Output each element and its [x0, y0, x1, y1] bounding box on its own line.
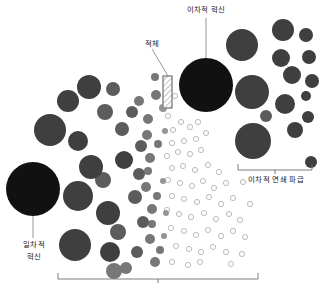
node-hollow: [175, 149, 180, 154]
node-dark-gray: [302, 50, 316, 64]
node-hollow: [185, 262, 190, 267]
node-gray: [142, 130, 152, 140]
node-mid-gray: [131, 246, 143, 258]
node-light-gray: [161, 233, 167, 239]
node-hollow: [169, 140, 174, 145]
node-black: [179, 58, 233, 112]
node-gray: [134, 96, 144, 106]
node-hollow: [169, 165, 174, 170]
node-gray: [153, 192, 161, 200]
node-hollow: [181, 228, 186, 233]
node-gray: [106, 263, 122, 279]
node-dark-gray: [301, 91, 311, 101]
node-hollow: [194, 199, 199, 204]
node-dark-gray: [299, 28, 313, 42]
label-primary-innovation-line2: 혁신: [12, 252, 56, 262]
node-gray: [145, 234, 155, 244]
node-mid-gray: [133, 168, 145, 180]
node-hollow: [193, 232, 198, 237]
node-hollow: [178, 119, 183, 124]
node-hollow: [188, 214, 193, 219]
node-black: [6, 162, 60, 216]
node-dark-gray: [226, 29, 258, 61]
node-hollow: [198, 147, 203, 152]
node-dark-gray: [63, 181, 93, 211]
node-mid-gray: [106, 82, 120, 96]
node-hollow: [218, 201, 223, 206]
node-hollow: [170, 127, 175, 132]
node-hollow: [187, 151, 192, 156]
node-dark-gray: [115, 151, 133, 169]
node-dark-gray: [302, 111, 314, 123]
node-hollow: [186, 246, 191, 251]
node-hollow: [187, 124, 192, 129]
node-hollow: [189, 183, 194, 188]
node-hollow: [239, 251, 244, 256]
node-hollow: [164, 153, 169, 158]
node-hollow: [226, 211, 231, 216]
node-light-gray: [160, 178, 166, 184]
node-gray: [147, 204, 157, 214]
bottleneck-leader: [152, 49, 168, 76]
label-secondary-chain-spread: 이차적 연쇄 파급: [238, 175, 314, 185]
node-hollow: [203, 130, 208, 135]
node-dark-gray: [235, 75, 269, 109]
node-hollow: [223, 180, 228, 185]
node-dark-gray: [283, 66, 301, 84]
node-dark-gray: [100, 242, 120, 262]
label-primary-innovation-line1: 일차적: [12, 240, 56, 250]
node-hollow: [180, 163, 185, 168]
node-gray: [145, 153, 155, 163]
node-hollow: [198, 249, 203, 254]
node-dark-gray: [272, 49, 290, 67]
node-dark-gray: [305, 156, 317, 168]
node-gray: [151, 90, 161, 100]
node-dark-gray: [235, 123, 271, 159]
node-hollow: [228, 261, 233, 266]
node-hollow: [237, 217, 242, 222]
node-hollow: [206, 194, 211, 199]
node-dark-gray: [68, 131, 88, 151]
node-group-light-gray: [159, 104, 169, 239]
node-mid-gray: [137, 216, 149, 228]
node-hollow: [169, 259, 174, 264]
node-dark-gray: [34, 114, 66, 146]
node-dark-gray: [59, 229, 91, 261]
label-bottleneck: 적체: [136, 39, 168, 49]
node-hollow: [169, 193, 174, 198]
node-hollow: [195, 119, 200, 124]
node-gray: [141, 182, 151, 192]
node-mid-gray: [97, 104, 113, 120]
bottleneck-rect-hatch: [163, 76, 172, 108]
node-mid-gray: [110, 224, 126, 240]
node-mid-gray: [126, 106, 138, 118]
node-hollow: [165, 113, 170, 118]
node-dark-gray: [57, 90, 79, 112]
node-light-gray: [163, 210, 169, 216]
node-gray: [148, 220, 156, 228]
node-mid-gray: [260, 110, 272, 122]
node-hollow: [172, 93, 177, 98]
node-hollow: [218, 233, 223, 238]
node-mid-gray: [128, 190, 142, 204]
node-gray: [151, 73, 159, 81]
node-light-gray: [162, 128, 168, 134]
node-group-dark-gray: [34, 19, 319, 262]
node-gray: [143, 114, 153, 124]
node-mid-gray: [135, 140, 147, 152]
node-dark-gray: [287, 122, 303, 138]
bottleneck-rect: [163, 76, 172, 108]
node-hollow: [205, 227, 210, 232]
node-gray: [154, 140, 162, 148]
node-dark-gray: [79, 155, 103, 179]
node-hollow: [200, 178, 205, 183]
node-hollow: [181, 196, 186, 201]
node-hollow: [177, 180, 182, 185]
node-hollow: [247, 201, 252, 206]
node-hollow: [165, 177, 170, 182]
node-hollow: [210, 244, 215, 249]
node-hollow: [230, 228, 235, 233]
node-hollow: [216, 169, 221, 174]
node-dark-gray: [272, 19, 294, 41]
node-hollow: [242, 234, 247, 239]
